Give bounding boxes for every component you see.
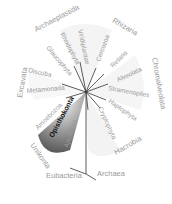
label-archaea: Archaea — [97, 169, 126, 178]
label-eubacteria: Eubacteria — [46, 171, 83, 180]
phylogenetic-tree: Archaeplastida Rhizaria Chromalveolata E… — [0, 0, 172, 204]
label-rhizaria: Rhizaria — [111, 16, 140, 38]
label-chromalveolata: Chromalveolata — [150, 57, 168, 111]
